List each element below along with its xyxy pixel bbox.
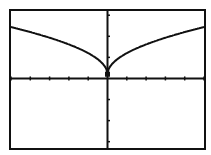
- calculator-graph-screen: [0, 0, 211, 155]
